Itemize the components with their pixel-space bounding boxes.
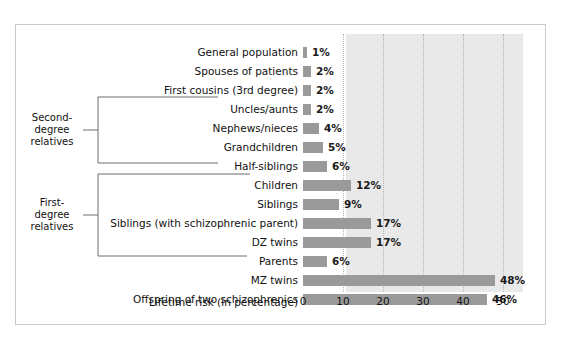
bar-value-label: 2% (316, 63, 334, 79)
bar-row: 12% (303, 176, 523, 195)
second-degree-relatives-label: Second-degreerelatives (22, 112, 82, 148)
bar-row: 4% (303, 119, 523, 138)
bar-value-label: 6% (332, 158, 350, 174)
bar (303, 275, 495, 286)
bar (303, 123, 319, 134)
bar-row: 2% (303, 81, 523, 100)
bar-value-label: 9% (344, 196, 362, 212)
bracket-label-line: relatives (22, 136, 82, 148)
bar (303, 218, 371, 229)
bar-row: 17% (303, 233, 523, 252)
bar-value-label: 48% (500, 272, 525, 288)
category-label-column: General populationSpouses of patientsFir… (8, 34, 298, 292)
category-label: Half-siblings (8, 158, 298, 174)
bracket-label-line: First- (22, 197, 82, 209)
bar-row: 2% (303, 62, 523, 81)
bracket-label-line: degree (22, 124, 82, 136)
bar-row: 1% (303, 43, 523, 62)
bar (303, 199, 339, 210)
bar-row: 6% (303, 252, 523, 271)
bracket-label-line: relatives (22, 221, 82, 233)
chart-figure: General populationSpouses of patientsFir… (0, 0, 561, 349)
category-label: General population (8, 44, 298, 60)
bar (303, 237, 371, 248)
bar-value-label: 17% (376, 234, 401, 250)
bar-value-label: 1% (312, 44, 330, 60)
bar-value-label: 17% (376, 215, 401, 231)
bar-row: 17% (303, 214, 523, 233)
bar (303, 104, 311, 115)
bracket-label-line: Second- (22, 112, 82, 124)
bracket-label-line: degree (22, 209, 82, 221)
bar (303, 47, 307, 58)
x-tick-label: 10 (331, 294, 355, 308)
bar-value-label: 2% (316, 101, 334, 117)
bar (303, 256, 327, 267)
bar-row: 48% (303, 271, 523, 290)
x-tick-label: 40 (451, 294, 475, 308)
x-tick-label: 50 (491, 294, 515, 308)
bar-value-label: 5% (328, 139, 346, 155)
bar (303, 142, 323, 153)
first-degree-relatives-label: First-degreerelatives (22, 197, 82, 233)
bar (303, 180, 351, 191)
bar-value-label: 12% (356, 177, 381, 193)
x-axis: 01020304050 (303, 292, 533, 314)
category-label: MZ twins (8, 272, 298, 288)
bar-row: 5% (303, 138, 523, 157)
category-label: First cousins (3rd degree) (8, 82, 298, 98)
bar-value-label: 6% (332, 253, 350, 269)
plot-area: 1%2%2%2%4%5%6%12%9%17%17%6%48%46% (303, 34, 523, 292)
x-tick-label: 30 (411, 294, 435, 308)
bar-row: 9% (303, 195, 523, 214)
bar-value-label: 4% (324, 120, 342, 136)
bar (303, 85, 311, 96)
x-tick-label: 20 (371, 294, 395, 308)
bar-row: 6% (303, 157, 523, 176)
category-label: Children (8, 177, 298, 193)
bar (303, 66, 311, 77)
bar-value-label: 2% (316, 82, 334, 98)
bar (303, 161, 327, 172)
category-label: DZ twins (8, 234, 298, 250)
x-axis-title: Lifetime risk (in percentage) (8, 294, 298, 310)
category-label: Spouses of patients (8, 63, 298, 79)
category-label: Parents (8, 253, 298, 269)
bar-row: 2% (303, 100, 523, 119)
